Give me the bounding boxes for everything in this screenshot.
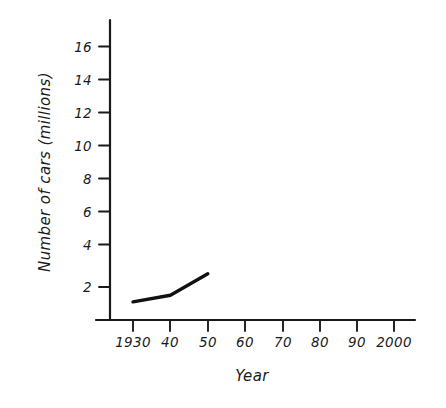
x-tick-label-2000: 2000 xyxy=(376,334,412,350)
y-tick-label-16: 16 xyxy=(74,39,92,55)
data-line-number-of-cars xyxy=(133,274,208,302)
x-tick-label-50: 50 xyxy=(199,334,217,350)
x-tick-label-80: 80 xyxy=(311,334,329,350)
x-axis-title: Year xyxy=(235,367,269,385)
y-tick-label-4: 4 xyxy=(83,237,92,253)
x-tick-label-60: 60 xyxy=(236,334,254,350)
y-tick-label-2: 2 xyxy=(83,279,92,295)
x-tick-label-1930: 1930 xyxy=(115,334,151,350)
x-tick-label-70: 70 xyxy=(274,334,292,350)
y-tick-label-6: 6 xyxy=(83,204,92,220)
y-axis-title: Number of cars (millions) xyxy=(36,72,54,272)
line-chart: 16 14 12 10 8 6 4 2 1930 40 50 60 70 80 … xyxy=(0,0,446,408)
y-tick-label-8: 8 xyxy=(83,171,92,187)
x-tick-label-90: 90 xyxy=(348,334,366,350)
y-tick-label-12: 12 xyxy=(74,105,92,121)
chart-container: 16 14 12 10 8 6 4 2 1930 40 50 60 70 80 … xyxy=(0,0,446,408)
y-tick-label-14: 14 xyxy=(74,72,92,88)
x-tick-label-40: 40 xyxy=(161,334,179,350)
y-tick-label-10: 10 xyxy=(74,138,92,154)
